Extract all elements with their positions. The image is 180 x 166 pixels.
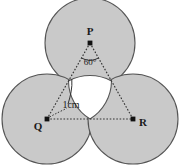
vertex-label-q: Q <box>34 120 43 132</box>
vertex-label-p: P <box>87 25 94 37</box>
angle-label-60-degrees: 60° <box>84 57 97 67</box>
vertex-dot-p <box>88 41 93 46</box>
measure-label-1cm: 1cm <box>62 99 79 110</box>
geometry-figure-container: P Q R 60° 1cm <box>0 0 180 166</box>
geometry-diagram: P Q R 60° 1cm <box>0 0 180 166</box>
vertex-dot-q <box>45 117 50 122</box>
vertex-label-r: R <box>139 116 148 128</box>
vertex-dot-r <box>131 117 136 122</box>
